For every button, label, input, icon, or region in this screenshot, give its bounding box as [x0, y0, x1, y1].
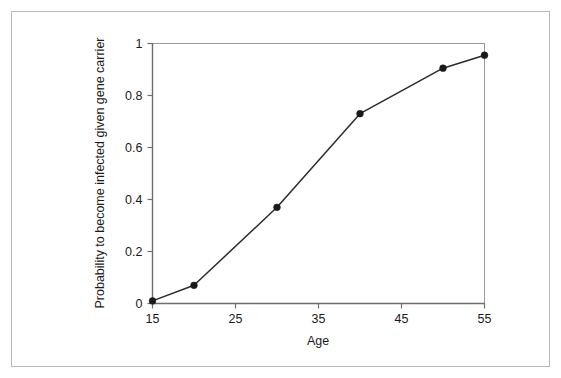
- x-tick-label: 45: [395, 312, 409, 326]
- x-axis-ticks: [153, 304, 485, 309]
- y-tick-label: 0.2: [125, 245, 142, 259]
- y-tick-label: 0.8: [125, 89, 142, 103]
- data-point-marker: [274, 204, 281, 211]
- x-axis-title: Age: [307, 334, 329, 348]
- y-axis-title: Probability to become infected given gen…: [93, 38, 107, 309]
- plot-spines: [152, 43, 485, 303]
- x-axis-tick-labels: 1525354555: [146, 312, 492, 326]
- data-point-marker: [149, 298, 156, 305]
- x-tick-label: 25: [229, 312, 243, 326]
- data-series-line: [153, 55, 485, 301]
- y-tick-label: 0.6: [125, 141, 142, 155]
- data-point-marker: [191, 282, 198, 289]
- data-point-marker: [440, 65, 447, 72]
- y-tick-label: 0: [136, 297, 143, 311]
- chart-canvas: 00.20.40.60.81 1525354555 Age Probabilit…: [0, 0, 561, 378]
- y-tick-label: 0.4: [125, 193, 142, 207]
- x-tick-label: 35: [312, 312, 326, 326]
- data-point-markers: [149, 52, 488, 304]
- plot-axes: [152, 43, 485, 304]
- y-axis-tick-labels: 00.20.40.60.81: [125, 37, 142, 311]
- y-tick-label: 1: [136, 37, 143, 51]
- figure-container: 00.20.40.60.81 1525354555 Age Probabilit…: [0, 0, 561, 378]
- x-tick-label: 15: [146, 312, 160, 326]
- y-axis-ticks: [148, 44, 153, 304]
- data-point-marker: [481, 52, 488, 59]
- x-tick-label: 55: [478, 312, 492, 326]
- data-point-marker: [357, 110, 364, 117]
